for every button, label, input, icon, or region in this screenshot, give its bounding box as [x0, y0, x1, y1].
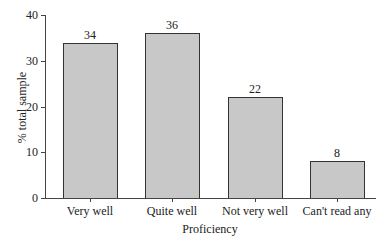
data-label: 36 — [142, 19, 202, 31]
y-tick-label: 10 — [8, 146, 38, 158]
x-tick — [255, 199, 256, 202]
bar-quite-well — [145, 33, 200, 198]
y-tick — [41, 152, 45, 153]
data-label: 34 — [60, 29, 120, 41]
y-tick-label: 30 — [8, 55, 38, 67]
bar-chart: % total sample 0 10 20 30 40 34 36 22 8 … — [0, 0, 389, 247]
y-tick — [41, 15, 45, 16]
y-tick — [41, 107, 45, 108]
y-tick — [41, 198, 45, 199]
x-category-label: Can't read any — [287, 204, 387, 218]
data-label: 8 — [307, 147, 367, 159]
y-tick-label: 0 — [8, 192, 38, 204]
y-tick — [41, 61, 45, 62]
x-tick — [90, 199, 91, 202]
bar-very-well — [63, 43, 118, 198]
y-tick-label: 20 — [8, 101, 38, 113]
bar-not-very-well — [228, 97, 283, 198]
x-tick — [337, 199, 338, 202]
y-tick-label: 40 — [8, 9, 38, 21]
x-axis — [45, 198, 376, 199]
bar-cant-read-any — [310, 161, 365, 198]
data-label: 22 — [225, 83, 285, 95]
x-tick — [172, 199, 173, 202]
x-axis-title: Proficiency — [160, 222, 260, 237]
y-axis — [45, 15, 46, 198]
